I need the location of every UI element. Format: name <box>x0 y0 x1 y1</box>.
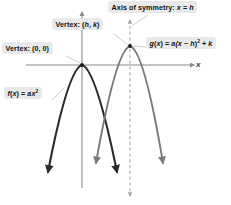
curve-g-right-branch <box>130 46 163 163</box>
curve-f-right-branch <box>82 65 117 172</box>
callout-axis-of-symmetry-variable-h: h <box>189 3 193 12</box>
plot-canvas <box>0 0 231 205</box>
curve-f-left-branch <box>48 65 82 172</box>
callout-g-function-body-k: k <box>208 39 212 48</box>
callout-g-function-body-minus: − <box>182 39 190 48</box>
callout-f-function-exponent: 2 <box>35 88 38 93</box>
leader-line-vertex-origin <box>66 56 80 63</box>
callout-axis-of-symmetry-prefix: Axis of symmetry: <box>112 3 177 12</box>
callout-vertex-origin-text: Vertex: (0, 0) <box>6 44 49 53</box>
vertex-point-origin <box>80 63 84 67</box>
leader-line-vertex-hk <box>113 33 128 45</box>
callout-g-function: g(x) = a(x − h)2 + k <box>146 37 216 49</box>
leader-line-gfunc <box>133 46 146 47</box>
leader-line-axis-symmetry <box>132 15 148 26</box>
callout-vertex-hk: Vertex: (h, k) <box>52 18 103 30</box>
callout-vertex-hk-prefix: Vertex: ( <box>56 20 85 29</box>
callout-axis-of-symmetry: Axis of symmetry: x = h <box>108 1 197 13</box>
x-axis-label: x <box>196 60 200 69</box>
vertex-point-hk <box>128 44 132 48</box>
quadratic-vertex-form-figure: Axis of symmetry: x = h Vertex: (h, k) V… <box>0 0 231 205</box>
callout-vertex-hk-suffix: ) <box>97 20 99 29</box>
callout-vertex-origin: Vertex: (0, 0) <box>2 42 53 54</box>
callout-axis-of-symmetry-equals: = <box>181 3 189 12</box>
callout-f-function: f(x) = ax2 <box>4 87 42 99</box>
leader-line-ffunc <box>52 88 64 100</box>
